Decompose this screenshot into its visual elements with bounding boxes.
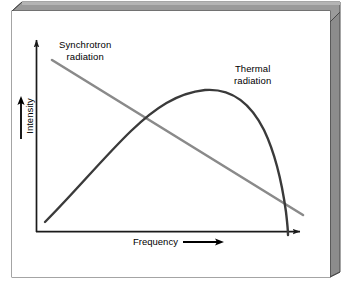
arrow-up-icon (16, 95, 26, 139)
thermal-label-line2: radiation (234, 75, 271, 87)
synchrotron-radiation-label: Synchrotron radiation (59, 39, 111, 62)
x-axis-title-text: Frequency (133, 236, 178, 247)
synchrotron-label-line1: Synchrotron (59, 39, 111, 51)
thermal-radiation-label: Thermal radiation (234, 63, 271, 86)
thermal-label-line1: Thermal (234, 63, 271, 75)
synchrotron-label-line2: radiation (59, 51, 111, 63)
arrow-right-icon (183, 237, 225, 247)
series-thermal-radiation (45, 90, 288, 235)
x-axis-title: Frequency (133, 236, 225, 247)
figure-root: Synchrotron radiation Thermal radiation … (0, 0, 345, 289)
